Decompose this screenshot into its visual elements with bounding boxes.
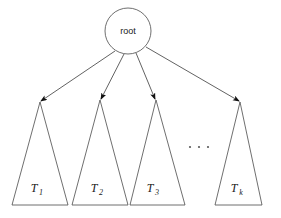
ellipsis-dot-3	[207, 146, 209, 148]
subtree-label-sub-t1: 1	[39, 188, 43, 197]
ellipsis-dot-1	[189, 146, 191, 148]
edge-root-to-t2	[101, 54, 124, 99]
edge-group	[41, 47, 239, 101]
subtree-t3: T 3	[130, 100, 185, 205]
edge-root-to-t3	[136, 53, 155, 99]
ellipsis-group	[189, 146, 209, 148]
edge-root-to-tk	[146, 47, 239, 101]
ellipsis-dot-2	[198, 146, 200, 148]
subtree-t2: T 2	[72, 100, 128, 205]
subtree-tk: T k	[215, 102, 262, 205]
root-node-label: root	[120, 26, 136, 36]
root-node: root	[105, 8, 151, 54]
subtree-label-sub-t3: 3	[154, 188, 159, 197]
tree-figure: root T 1 T 2 T 3 T k	[0, 0, 281, 218]
subtree-label-sub-tk: k	[239, 188, 243, 197]
subtree-label-sub-t2: 2	[99, 188, 103, 197]
subtree-t1: T 1	[12, 102, 68, 205]
tree-diagram: root T 1 T 2 T 3 T k	[0, 0, 281, 218]
